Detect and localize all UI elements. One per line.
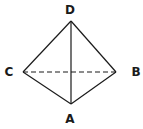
edge-d-b: [71, 21, 116, 72]
edge-c-a: [23, 72, 71, 104]
vertex-label-c: C: [5, 65, 14, 79]
vertex-label-d: D: [65, 3, 75, 17]
edge-d-c: [23, 21, 71, 72]
vertex-label-b: B: [131, 65, 140, 79]
vertex-label-a: A: [65, 112, 75, 126]
tetrahedron-diagram: D C B A: [0, 0, 143, 129]
edge-b-a: [71, 72, 116, 104]
